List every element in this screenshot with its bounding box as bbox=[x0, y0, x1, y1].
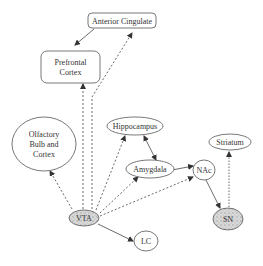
node-lc: LC bbox=[134, 231, 158, 251]
node-sn: SN bbox=[213, 208, 243, 230]
pathway-diagram: Anterior Cingulate Prefrontal Cortex Olf… bbox=[0, 0, 263, 266]
edge-vta-olfactory bbox=[50, 171, 72, 209]
node-amygdala: Amygdala bbox=[126, 160, 174, 178]
svg-text:Olfactory: Olfactory bbox=[29, 130, 60, 139]
svg-text:VTA: VTA bbox=[76, 214, 92, 223]
node-striatum: Striatum bbox=[209, 134, 251, 150]
svg-text:Striatum: Striatum bbox=[216, 138, 244, 147]
svg-text:Cortex: Cortex bbox=[33, 150, 55, 159]
edge-nac-sn bbox=[206, 180, 220, 208]
svg-text:Cortex: Cortex bbox=[60, 68, 82, 77]
edge-ac-pfc bbox=[75, 29, 94, 45]
svg-text:LC: LC bbox=[141, 237, 151, 246]
node-vta: VTA bbox=[69, 210, 99, 226]
node-hippocampus: Hippocampus bbox=[107, 117, 163, 135]
svg-text:SN: SN bbox=[223, 215, 233, 224]
svg-text:Hippocampus: Hippocampus bbox=[113, 122, 157, 131]
edge-vta-lc bbox=[98, 224, 133, 241]
edge-hippocampus-amygdala bbox=[144, 136, 156, 160]
svg-text:NAc: NAc bbox=[196, 166, 212, 175]
node-anterior-cingulate: Anterior Cingulate bbox=[88, 13, 156, 28]
edge-amygdala-nac bbox=[172, 166, 193, 170]
svg-text:Anterior Cingulate: Anterior Cingulate bbox=[92, 17, 153, 26]
svg-text:Prefrontal: Prefrontal bbox=[55, 58, 88, 67]
node-prefrontal-cortex: Prefrontal Cortex bbox=[41, 51, 100, 83]
node-olfactory-bulb-cortex: Olfactory Bulb and Cortex bbox=[12, 117, 76, 171]
node-nac: NAc bbox=[193, 160, 215, 180]
edge-vta-nac bbox=[100, 177, 193, 216]
svg-text:Bulb and: Bulb and bbox=[29, 140, 58, 149]
edge-vta-hippocampus bbox=[96, 136, 125, 210]
svg-text:Amygdala: Amygdala bbox=[133, 165, 167, 174]
